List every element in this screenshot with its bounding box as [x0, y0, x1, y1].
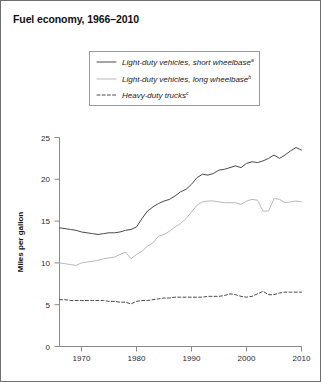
legend-footnote-marker-2: b — [248, 74, 251, 80]
legend-label-3: Heavy-duty trucksc — [122, 90, 189, 100]
x-tick-label: 1990 — [183, 354, 201, 363]
legend-label-1: Light-duty vehicles, short wheelbasea — [122, 57, 254, 67]
x-tick-label: 1980 — [128, 354, 146, 363]
x-axis-ticks: 19701980199020002010 — [73, 347, 311, 364]
chart-figure: Fuel economy, 1966–2010 Light-duty vehic… — [0, 0, 321, 382]
y-tick-label: 0 — [46, 343, 51, 352]
x-tick-label: 2000 — [238, 354, 256, 363]
y-tick-label: 20 — [41, 175, 50, 184]
x-tick-label: 1970 — [73, 354, 91, 363]
series-line-3 — [60, 291, 302, 304]
x-tick-label: 2010 — [293, 354, 311, 363]
chart-plot-area: Light-duty vehicles, short wheelbaseaLig… — [1, 1, 321, 382]
y-tick-label: 15 — [41, 217, 50, 226]
legend-label-2: Light-duty vehicles, long wheelbaseb — [122, 74, 251, 84]
series-line-1 — [60, 148, 302, 235]
y-tick-label: 25 — [41, 134, 50, 143]
y-axis-title: Miles per gallon — [16, 212, 25, 273]
y-tick-label: 10 — [41, 259, 50, 268]
data-series-group — [60, 148, 302, 304]
series-line-2 — [60, 199, 302, 266]
y-tick-label: 5 — [46, 301, 51, 310]
y-axis-ticks: 0510152025 — [41, 134, 59, 352]
legend-footnote-marker-1: a — [251, 57, 254, 63]
